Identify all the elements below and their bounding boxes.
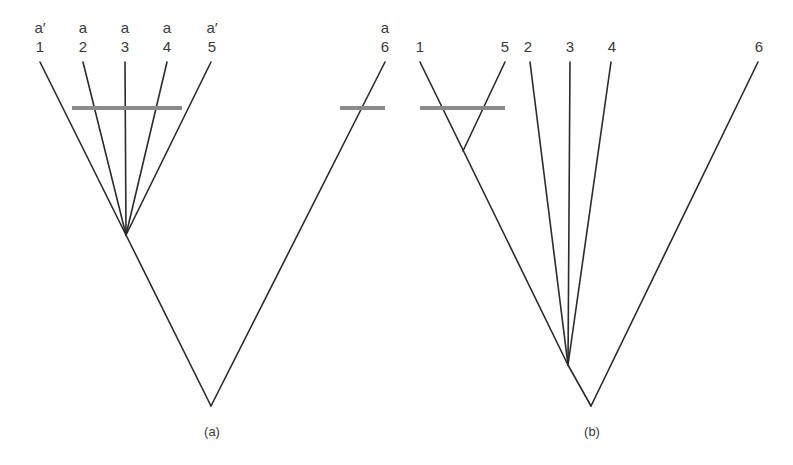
state-label-a-6: a	[381, 20, 389, 35]
branch-a-root-hub	[126, 235, 211, 406]
state-label-a-3: a	[121, 20, 129, 35]
taxon-label-b-4: 4	[608, 39, 616, 54]
branch-b-root-6	[591, 62, 758, 406]
state-label-a-4: a	[163, 20, 171, 35]
taxon-label-a-6: 6	[381, 39, 389, 54]
taxon-label-a-2: 2	[79, 39, 87, 54]
branch-a-3	[125, 62, 126, 235]
state-label-a-1: a′	[34, 20, 45, 35]
taxon-label-a-1: 1	[36, 39, 44, 54]
taxon-label-b-2: 2	[524, 39, 532, 54]
branch-b-2	[530, 62, 568, 365]
branch-b-3	[568, 62, 570, 365]
branch-b-root-hub	[568, 365, 591, 406]
taxon-label-a-4: 4	[163, 39, 171, 54]
branch-a-5	[126, 62, 211, 235]
branch-a-2	[83, 62, 126, 235]
state-label-a-2: a	[79, 20, 87, 35]
taxon-label-a-5: 5	[208, 39, 216, 54]
taxon-label-b-1: 1	[416, 39, 424, 54]
branch-a-4	[126, 62, 167, 235]
panel-caption-b: (b)	[584, 425, 600, 438]
taxon-label-b-6: 6	[755, 39, 763, 54]
taxon-label-b-5: 5	[501, 39, 509, 54]
branch-b-4	[568, 62, 611, 365]
taxon-label-b-3: 3	[566, 39, 574, 54]
state-label-a-5: a′	[206, 20, 217, 35]
tree-diagram	[0, 0, 793, 465]
tree-b	[420, 62, 758, 406]
panel-caption-a: (a)	[204, 425, 220, 438]
taxon-label-a-3: 3	[121, 39, 129, 54]
branch-a-1	[40, 62, 126, 235]
branch-a-root-6	[211, 62, 385, 406]
tree-a	[40, 62, 385, 406]
